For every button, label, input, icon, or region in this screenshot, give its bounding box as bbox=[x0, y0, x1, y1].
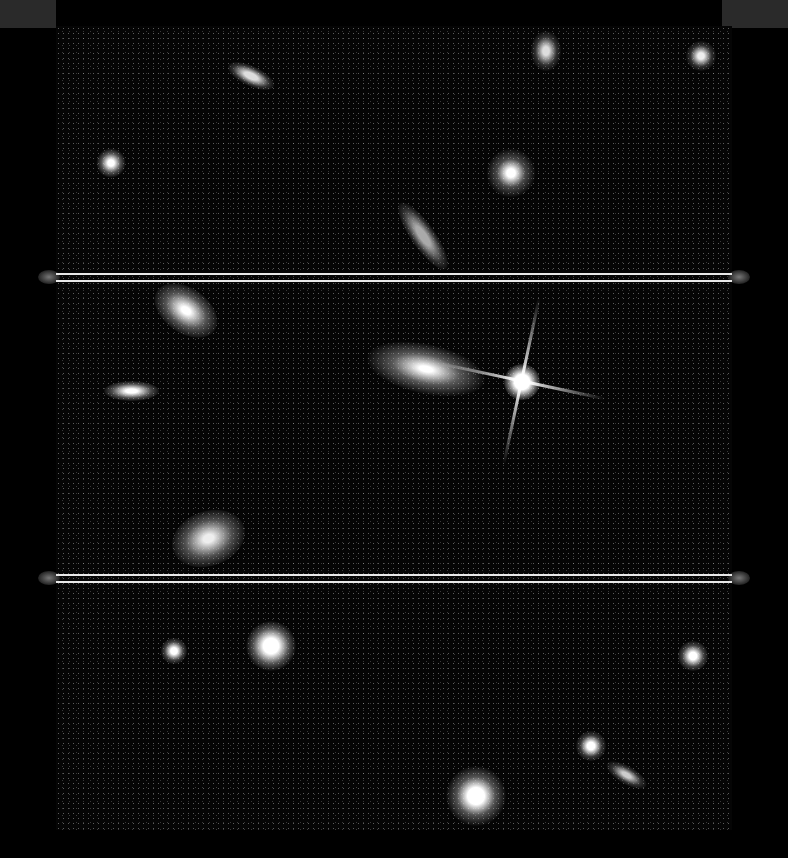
galaxy bbox=[678, 641, 708, 671]
right-corner-block bbox=[722, 0, 788, 28]
galaxy bbox=[531, 31, 561, 71]
deep-field-image bbox=[56, 26, 732, 830]
separator-line bbox=[56, 280, 732, 282]
separator-line bbox=[56, 273, 732, 275]
left-corner-block bbox=[0, 0, 56, 28]
background-noise bbox=[56, 26, 732, 830]
galaxy bbox=[96, 148, 126, 178]
galaxy bbox=[486, 148, 536, 198]
galaxy bbox=[246, 621, 296, 671]
galaxy bbox=[446, 766, 506, 826]
galaxy bbox=[104, 381, 159, 401]
separator-line bbox=[56, 581, 732, 583]
galaxy bbox=[686, 41, 716, 71]
galaxy bbox=[161, 638, 187, 664]
galaxy bbox=[576, 731, 606, 761]
separator-line bbox=[56, 574, 732, 576]
